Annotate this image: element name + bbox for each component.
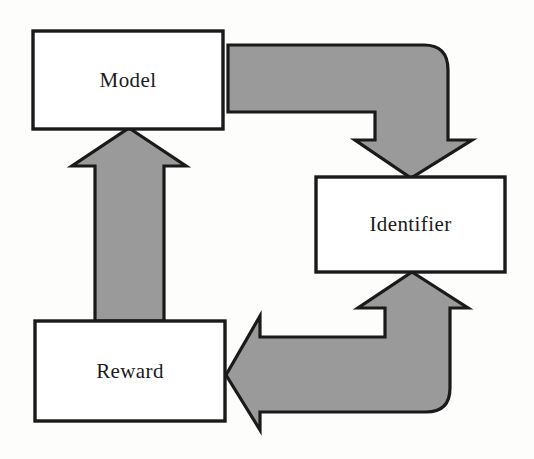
diagram-svg bbox=[0, 0, 534, 459]
node-box-reward[interactable] bbox=[35, 321, 225, 421]
arrow-identifier-to-reward bbox=[226, 272, 468, 430]
diagram-canvas: Model Identifier Reward bbox=[0, 0, 534, 459]
arrow-reward-to-model bbox=[72, 128, 186, 321]
node-box-identifier[interactable] bbox=[316, 177, 505, 272]
node-box-model[interactable] bbox=[33, 31, 223, 129]
arrow-model-to-identifier bbox=[228, 45, 472, 178]
